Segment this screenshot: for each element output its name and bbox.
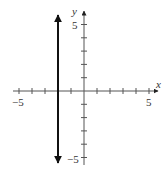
y-tick-label-neg5: −5 — [67, 153, 79, 165]
x-axis-label: x — [155, 78, 161, 90]
coordinate-plane: x y −5 5 5 −5 — [0, 0, 168, 169]
y-tick-label-5: 5 — [72, 19, 78, 31]
x-tick-label-neg5: −5 — [12, 96, 24, 108]
x-tick-label-5: 5 — [146, 96, 152, 108]
y-axis-label: y — [71, 5, 77, 17]
